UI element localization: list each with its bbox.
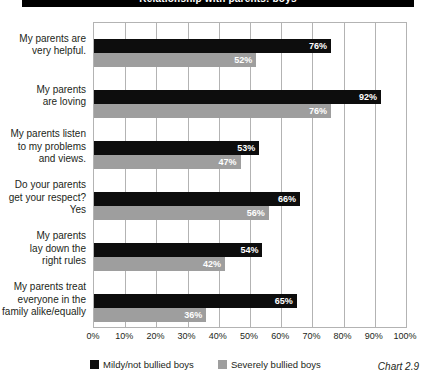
x-axis-tick-label: 50% bbox=[240, 331, 258, 341]
x-axis-tick-label: 0% bbox=[86, 331, 99, 341]
bar-group: 54%42% bbox=[94, 227, 406, 278]
x-axis-tick-label: 30% bbox=[178, 331, 196, 341]
bar-group: 66%56% bbox=[94, 176, 406, 227]
x-axis-tick-label: 90% bbox=[365, 331, 383, 341]
bar-mildy-not-bullied: 53% bbox=[94, 141, 259, 155]
bar-value-label: 76% bbox=[309, 39, 327, 53]
bar-severely-bullied: 76% bbox=[94, 104, 331, 118]
bar-severely-bullied: 56% bbox=[94, 206, 269, 220]
bar-group: 65%36% bbox=[94, 278, 406, 329]
chart-title: Relationship with parents: boys bbox=[22, 0, 414, 4]
x-axis-tick-label: 10% bbox=[115, 331, 133, 341]
bar-group: 53%47% bbox=[94, 125, 406, 176]
category-label: Do your parentsget your respect?Yes bbox=[0, 179, 86, 217]
chart-caption: Chart 2.9 bbox=[378, 361, 419, 372]
x-axis-tick-label: 80% bbox=[334, 331, 352, 341]
bar-mildy-not-bullied: 66% bbox=[94, 192, 300, 206]
bar-value-label: 52% bbox=[234, 53, 252, 67]
bar-severely-bullied: 52% bbox=[94, 53, 256, 67]
bar-value-label: 92% bbox=[359, 90, 377, 104]
bar-value-label: 66% bbox=[278, 192, 296, 206]
x-axis-tick-label: 100% bbox=[393, 331, 416, 341]
bar-value-label: 65% bbox=[275, 294, 293, 308]
x-axis-tick-label: 20% bbox=[146, 331, 164, 341]
chart-title-bar: Relationship with parents: boys bbox=[22, 0, 414, 7]
bar-severely-bullied: 42% bbox=[94, 257, 225, 271]
x-axis-ticks: 0%10%20%30%40%50%60%70%80%90%100% bbox=[93, 331, 407, 345]
category-label: My parents listento my problemsand views… bbox=[0, 128, 86, 166]
legend-label: Severely bullied boys bbox=[231, 359, 321, 370]
x-axis-tick-label: 60% bbox=[271, 331, 289, 341]
category-label: My parents arevery helpful. bbox=[0, 33, 86, 58]
legend-label: Mildy/not bullied boys bbox=[103, 359, 194, 370]
legend-item[interactable]: Severely bullied boys bbox=[218, 359, 321, 370]
bar-value-label: 56% bbox=[247, 206, 265, 220]
bar-value-label: 36% bbox=[184, 308, 202, 322]
bar-severely-bullied: 47% bbox=[94, 155, 241, 169]
bar-mildy-not-bullied: 92% bbox=[94, 90, 381, 104]
bar-severely-bullied: 36% bbox=[94, 308, 206, 322]
bar-group: 92%76% bbox=[94, 74, 406, 125]
bar-group: 76%52% bbox=[94, 23, 406, 74]
bar-value-label: 54% bbox=[240, 243, 258, 257]
legend-item[interactable]: Mildy/not bullied boys bbox=[90, 359, 194, 370]
x-axis-tick-label: 40% bbox=[209, 331, 227, 341]
bar-value-label: 76% bbox=[309, 104, 327, 118]
bar-value-label: 42% bbox=[203, 257, 221, 271]
x-axis-tick-label: 70% bbox=[302, 331, 320, 341]
plot-area: 76%52%92%76%53%47%66%56%54%42%65%36% bbox=[93, 22, 407, 328]
bar-value-label: 53% bbox=[237, 141, 255, 155]
legend-swatch-icon bbox=[90, 360, 99, 369]
bar-value-label: 47% bbox=[219, 155, 237, 169]
category-label: My parentsare loving bbox=[0, 84, 86, 109]
bar-mildy-not-bullied: 54% bbox=[94, 243, 262, 257]
legend-swatch-icon bbox=[218, 360, 227, 369]
bar-mildy-not-bullied: 65% bbox=[94, 294, 297, 308]
bar-mildy-not-bullied: 76% bbox=[94, 39, 331, 53]
category-label: My parents treateveryone in thefamily al… bbox=[0, 281, 86, 319]
category-label: My parentslay down theright rules bbox=[0, 230, 86, 268]
